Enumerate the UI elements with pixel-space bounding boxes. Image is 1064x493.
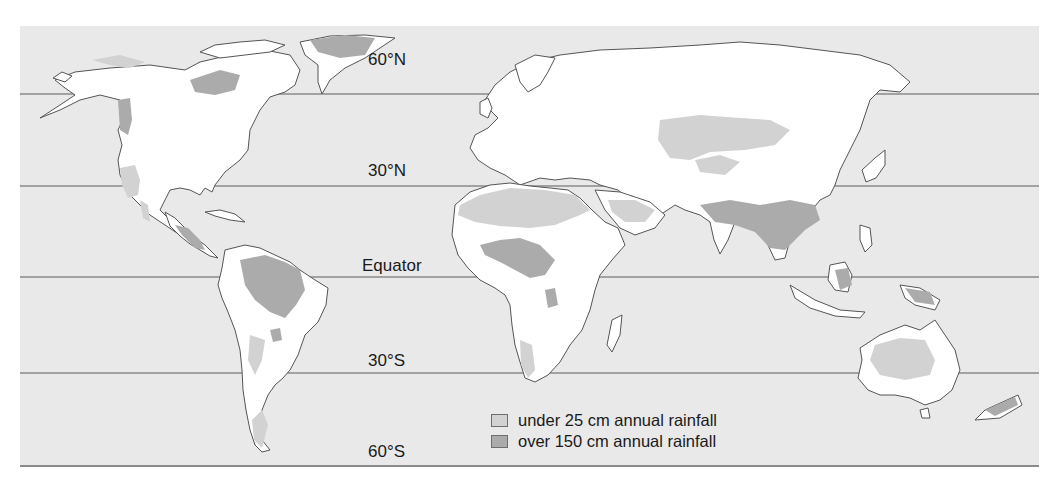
legend-item-wet: over 150 cm annual rainfall (491, 431, 717, 452)
latitude-label-equator: Equator (362, 257, 422, 274)
legend-swatch-dry (491, 414, 508, 427)
legend-item-dry: under 25 cm annual rainfall (491, 410, 717, 431)
legend-label-wet: over 150 cm annual rainfall (518, 432, 716, 451)
latitude-label-30n: 30°N (368, 162, 406, 179)
latitude-label-30s: 30°S (368, 352, 405, 369)
legend-swatch-wet (491, 435, 508, 448)
legend-label-dry: under 25 cm annual rainfall (518, 411, 717, 430)
latitude-label-60n: 60°N (368, 51, 406, 68)
north-america (40, 50, 300, 238)
legend: under 25 cm annual rainfall over 150 cm … (491, 410, 717, 452)
latitude-label-60s: 60°S (368, 443, 405, 460)
